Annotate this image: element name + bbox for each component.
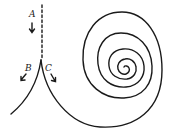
label-b: B bbox=[25, 64, 32, 73]
label-a: A bbox=[29, 10, 36, 19]
arrow-b-icon bbox=[21, 74, 26, 81]
arrow-a-icon bbox=[30, 23, 35, 33]
arrow-c-icon bbox=[51, 74, 56, 82]
label-c: C bbox=[45, 64, 52, 73]
branch-c-spiral bbox=[41, 12, 162, 127]
